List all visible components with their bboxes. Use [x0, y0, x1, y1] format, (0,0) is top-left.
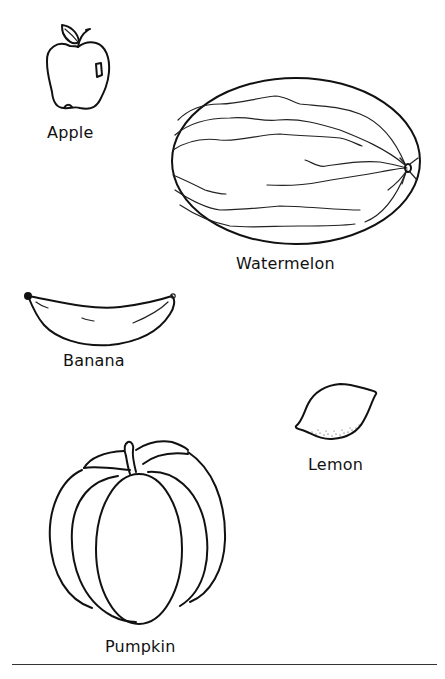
label-lemon: Lemon: [308, 457, 363, 473]
fruit-illustrations: [0, 0, 445, 679]
label-apple: Apple: [47, 125, 94, 141]
label-banana: Banana: [63, 353, 125, 369]
apple-icon: [47, 25, 109, 109]
lemon-icon: [296, 384, 376, 439]
banana-icon: [24, 292, 175, 345]
label-watermelon: Watermelon: [236, 256, 335, 272]
watermelon-icon: [172, 78, 420, 244]
bottom-divider: [12, 664, 437, 665]
label-pumpkin: Pumpkin: [105, 639, 176, 655]
lemon-texture: [311, 425, 359, 437]
pumpkin-icon: [50, 441, 225, 624]
